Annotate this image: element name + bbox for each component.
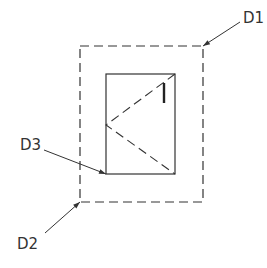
- leader-line-d3: [44, 150, 106, 174]
- leader-line-d1: [203, 22, 240, 46]
- label-d1: D1: [243, 9, 264, 27]
- technical-drawing: D1 D3 D2: [0, 0, 267, 268]
- leader-line-d2: [45, 202, 80, 233]
- outer-dashed-boundary: [80, 46, 203, 202]
- label-d2: D2: [17, 235, 38, 253]
- label-d3: D3: [20, 136, 41, 154]
